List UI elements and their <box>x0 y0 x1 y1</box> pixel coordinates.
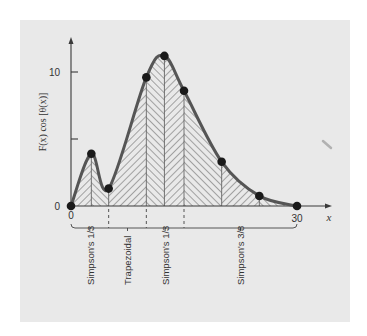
data-point <box>160 52 169 61</box>
y-tick-label-10: 10 <box>49 67 61 78</box>
segment-label-simpson13-a: Simpson's 1/3 <box>85 226 96 285</box>
segment-label-trapezoidal: Trapezoidal <box>122 236 133 285</box>
data-point <box>217 157 226 166</box>
data-point <box>142 73 151 82</box>
data-point <box>87 149 96 158</box>
x-axis-label: x <box>326 211 332 223</box>
data-point <box>67 202 76 211</box>
y-axis-label: F(x) cos [θ(x)] <box>37 93 49 152</box>
data-point <box>293 202 302 211</box>
segment-label-simpson38: Simpson's 3/8 <box>235 226 246 285</box>
data-point <box>255 192 264 201</box>
x-tick-label-0: 0 <box>68 210 74 221</box>
data-point <box>104 184 113 193</box>
data-point <box>180 86 189 95</box>
segment-label-simpson13-b: Simpson's 1/3 <box>160 226 171 285</box>
x-tick-label-30: 30 <box>291 213 303 224</box>
chart-figure: 0 10 0 30 x F(x) cos [θ(x)] Simpson's 1/… <box>0 0 367 336</box>
y-tick-label-0: 0 <box>54 201 60 212</box>
